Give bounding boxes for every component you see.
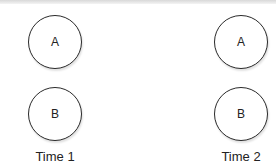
cropped-header-strip (0, 0, 276, 4)
node-a-time2: A (214, 15, 268, 69)
column-label-time2: Time 2 (201, 149, 276, 164)
node-label: B (237, 107, 245, 121)
node-b-time1: B (28, 87, 82, 141)
node-label: B (51, 107, 59, 121)
column-label-time1: Time 1 (15, 149, 95, 164)
node-label: A (237, 35, 245, 49)
node-a-time1: A (28, 15, 82, 69)
node-b-time2: B (214, 87, 268, 141)
node-label: A (51, 35, 59, 49)
